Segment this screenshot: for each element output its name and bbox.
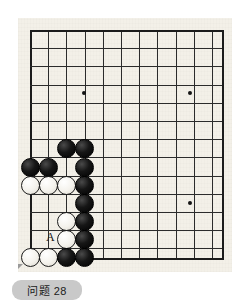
grid-line-horizontal (30, 212, 222, 213)
white-stone (21, 176, 40, 195)
black-stone (75, 158, 94, 177)
star-point (188, 91, 192, 95)
grid-line-horizontal (30, 157, 222, 158)
black-stone (75, 248, 94, 267)
black-stone (57, 248, 76, 267)
star-point (188, 201, 192, 205)
black-stone (75, 212, 94, 231)
black-stone (57, 139, 76, 158)
black-stone (21, 158, 40, 177)
grid-line-horizontal (30, 121, 222, 122)
black-stone (75, 176, 94, 195)
corner-tick-decoration (18, 264, 23, 269)
board-grid (0, 0, 246, 308)
grid-line-vertical (194, 30, 195, 258)
grid-line-horizontal (30, 230, 222, 231)
grid-line-vertical (121, 30, 122, 258)
black-stone (75, 230, 94, 249)
white-stone (39, 176, 58, 195)
grid-line-vertical (48, 30, 49, 258)
grid-line-vertical (103, 30, 104, 258)
grid-line-vertical (212, 30, 213, 258)
grid-line-horizontal (30, 85, 222, 86)
white-stone (39, 248, 58, 267)
grid-edge-right (222, 30, 224, 260)
grid-line-horizontal (30, 48, 222, 49)
black-stone (75, 139, 94, 158)
grid-line-horizontal (30, 66, 222, 67)
grid-line-horizontal (30, 248, 222, 249)
grid-line-vertical (139, 30, 140, 258)
white-stone (21, 248, 40, 267)
problem-caption: 问题 28 (12, 280, 82, 300)
grid-line-horizontal (30, 103, 222, 104)
grid-line-horizontal (30, 30, 222, 32)
grid-line-vertical (176, 30, 177, 258)
grid-line-horizontal (30, 139, 222, 140)
black-stone (75, 194, 94, 213)
grid-line-horizontal (30, 194, 222, 195)
white-stone (57, 176, 76, 195)
white-stone (57, 230, 76, 249)
white-stone (57, 212, 76, 231)
grid-line-horizontal (30, 176, 222, 177)
grid-line-vertical (30, 30, 32, 258)
black-stone (39, 158, 58, 177)
point-marker-a: A (46, 231, 55, 243)
star-point (82, 91, 86, 95)
go-problem-figure: A 问题 28 (0, 0, 246, 308)
grid-line-vertical (157, 30, 158, 258)
